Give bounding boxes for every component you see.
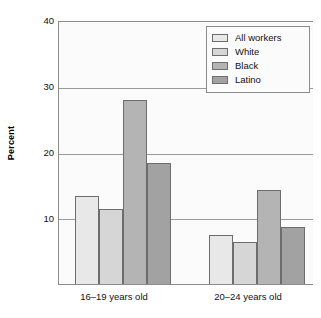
y-tick-label-30: 30 bbox=[30, 82, 54, 92]
bar-20-24-white[interactable] bbox=[233, 242, 257, 285]
x-axis-baseline bbox=[58, 284, 313, 285]
y-tick-label-40: 40 bbox=[30, 16, 54, 26]
bar-20-24-all-workers[interactable] bbox=[209, 235, 233, 285]
legend-item-all-workers[interactable]: All workers bbox=[212, 31, 304, 45]
legend-label-white: White bbox=[235, 47, 259, 57]
y-axis-title: Percent bbox=[6, 113, 16, 173]
bar-chart-figure: Percent 40 30 20 10 16–19 years old 20–2… bbox=[0, 0, 321, 318]
legend-label-black: Black bbox=[235, 61, 258, 71]
legend-label-latino: Latino bbox=[235, 75, 261, 85]
bar-16-19-black[interactable] bbox=[123, 100, 147, 285]
legend-swatch-icon-white bbox=[212, 48, 228, 56]
y-tick-label-20: 20 bbox=[30, 148, 54, 158]
bar-20-24-latino[interactable] bbox=[281, 227, 305, 285]
chart-legend: All workers White Black Latino bbox=[206, 26, 310, 93]
y-axis-tick-labels: 40 30 20 10 bbox=[26, 0, 54, 318]
bar-20-24-black[interactable] bbox=[257, 190, 281, 285]
x-axis-label-16-19: 16–19 years old bbox=[62, 291, 166, 302]
legend-item-latino[interactable]: Latino bbox=[212, 73, 304, 87]
x-axis-label-20-24: 20–24 years old bbox=[196, 291, 300, 302]
bar-group-16-19 bbox=[75, 22, 171, 285]
y-tick-label-10: 10 bbox=[30, 214, 54, 224]
legend-label-all-workers: All workers bbox=[235, 33, 281, 43]
bar-16-19-latino[interactable] bbox=[147, 163, 171, 285]
bar-16-19-white[interactable] bbox=[99, 209, 123, 285]
legend-swatch-icon-latino bbox=[212, 76, 228, 84]
bar-16-19-all-workers[interactable] bbox=[75, 196, 99, 285]
legend-swatch-icon-all-workers bbox=[212, 34, 228, 42]
legend-swatch-icon-black bbox=[212, 62, 228, 70]
legend-item-black[interactable]: Black bbox=[212, 59, 304, 73]
legend-item-white[interactable]: White bbox=[212, 45, 304, 59]
